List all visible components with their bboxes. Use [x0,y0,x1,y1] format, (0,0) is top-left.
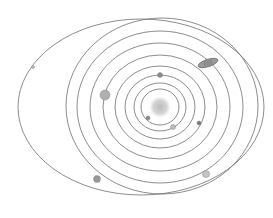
sun-icon [148,95,172,119]
pluto-icon [32,66,35,69]
orbits-group [18,18,264,195]
planets-group [32,56,220,182]
mercury-icon [146,116,150,120]
sun-group [148,95,172,119]
jupiter-icon [100,90,110,100]
neptune-icon [203,171,210,178]
solar-system-diagram [0,0,273,218]
earth-icon [197,121,201,125]
mars-icon [158,73,163,78]
venus-icon [171,125,176,130]
uranus-icon [94,176,101,183]
orbit-canvas [0,0,273,218]
